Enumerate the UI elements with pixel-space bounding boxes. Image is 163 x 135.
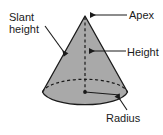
- label-slant-height: Slant height: [9, 11, 39, 35]
- label-apex: Apex: [129, 9, 154, 21]
- label-slant-height-line2: height: [9, 23, 39, 35]
- slant-height-leader-line: [45, 26, 66, 55]
- label-slant-height-line1: Slant: [9, 11, 39, 23]
- label-height: Height: [127, 46, 159, 58]
- cone-diagram: Slant height Apex Height Radius: [0, 0, 163, 135]
- label-radius: Radius: [106, 112, 140, 124]
